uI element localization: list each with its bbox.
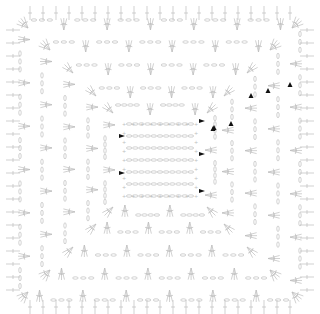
svg-text:+: + (122, 193, 126, 199)
svg-text:+: + (149, 121, 153, 127)
svg-text:+: + (122, 157, 126, 163)
svg-text:+: + (158, 121, 162, 127)
svg-text:+: + (194, 139, 198, 145)
svg-text:+: + (194, 157, 198, 163)
svg-text:+: + (194, 184, 198, 190)
svg-text:+: + (194, 121, 198, 127)
svg-text:+: + (176, 121, 180, 127)
triangle-marker-icon (249, 93, 254, 98)
svg-text:+: + (185, 193, 189, 199)
svg-text:+: + (185, 121, 189, 127)
svg-text:+: + (194, 130, 198, 136)
svg-text:+: + (140, 193, 144, 199)
svg-text:+: + (158, 193, 162, 199)
triangle-marker-icon (288, 82, 293, 87)
svg-text:+: + (140, 121, 144, 127)
svg-text:+: + (122, 184, 126, 190)
svg-text:+: + (194, 175, 198, 181)
svg-text:+: + (122, 139, 126, 145)
svg-text:+: + (167, 193, 171, 199)
start-marker-icon (199, 119, 205, 123)
svg-text:+: + (122, 148, 126, 154)
start-marker-icon (199, 152, 205, 156)
round-markers (119, 82, 293, 193)
svg-text:+: + (167, 121, 171, 127)
start-marker-icon (199, 189, 205, 193)
stitch-symbols: ++++++++++++++++++++++++++++++++ (6, 6, 314, 314)
svg-text:+: + (131, 121, 135, 127)
crochet-chart: ++++++++++++++++++++++++++++++++ (0, 0, 320, 314)
svg-text:+: + (194, 193, 198, 199)
svg-text:+: + (122, 121, 126, 127)
svg-text:+: + (194, 148, 198, 154)
svg-text:+: + (131, 193, 135, 199)
svg-text:+: + (194, 166, 198, 172)
svg-text:+: + (149, 193, 153, 199)
triangle-marker-icon (229, 121, 234, 126)
svg-text:+: + (176, 193, 180, 199)
svg-text:+: + (122, 166, 126, 172)
svg-text:+: + (122, 175, 126, 181)
svg-text:+: + (122, 130, 126, 136)
triangle-marker-icon (266, 88, 271, 93)
